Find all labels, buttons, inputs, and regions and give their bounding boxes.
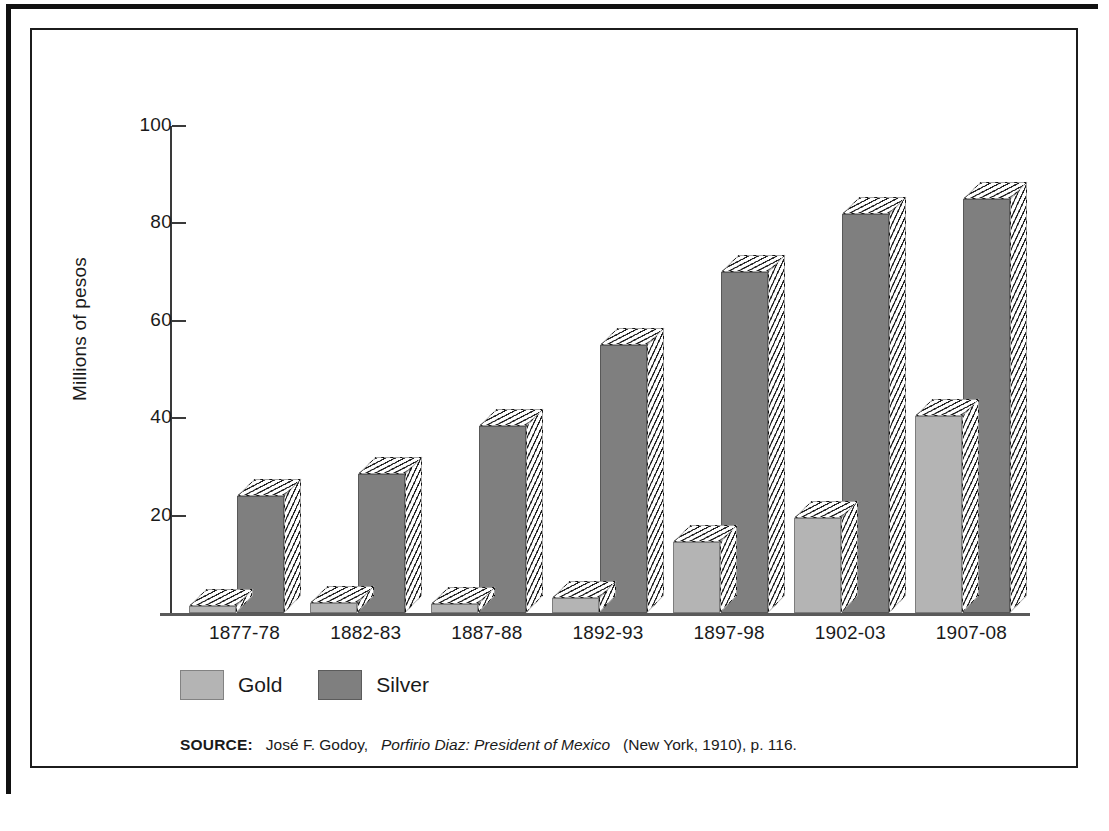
- bar-gold: [552, 598, 599, 613]
- source-title: Porfirio Diaz: President of Mexico: [381, 736, 610, 753]
- x-axis-label: 1882-83: [305, 622, 426, 644]
- bar-side-face: [962, 398, 979, 613]
- bar-front-face: [479, 426, 526, 613]
- bar-silver: [479, 426, 526, 613]
- bar-side-face: [526, 408, 543, 613]
- bar-group: [431, 30, 543, 613]
- bar-group: [915, 30, 1027, 613]
- chart-legend: GoldSilver: [180, 670, 429, 700]
- y-tick-label-20: 20: [126, 504, 172, 526]
- source-prefix: SOURCE:: [180, 736, 253, 753]
- bar-group: [552, 30, 664, 613]
- bar-side-face: [284, 479, 301, 613]
- x-axis-label: 1902-03: [790, 622, 911, 644]
- bar-side-face: [405, 457, 422, 613]
- bar-side-face: [768, 255, 785, 613]
- bar-gold: [673, 542, 720, 613]
- y-tick-100: [172, 125, 186, 127]
- bar-side-face: [889, 196, 906, 613]
- page-canvas: 20406080100 Millions of pesos 1877-78188…: [0, 0, 1109, 831]
- bar-group: [673, 30, 785, 613]
- source-author: José F. Godoy,: [266, 736, 368, 753]
- bar-front-face: [600, 345, 647, 613]
- legend-label-gold: Gold: [238, 673, 282, 697]
- bar-gold: [310, 603, 357, 613]
- y-tick-label-40: 40: [126, 406, 172, 428]
- bar-gold: [189, 606, 236, 613]
- legend-swatch-gold: [180, 670, 224, 700]
- x-axis-label: 1887-88: [426, 622, 547, 644]
- y-tick-40: [172, 417, 186, 419]
- y-tick-label-80: 80: [126, 211, 172, 233]
- legend-item-silver: Silver: [318, 670, 429, 700]
- bar-side-face: [647, 328, 664, 613]
- bar-front-face: [431, 604, 478, 613]
- bar-gold: [431, 604, 478, 613]
- bar-group: [310, 30, 422, 613]
- legend-item-gold: Gold: [180, 670, 282, 700]
- bar-front-face: [915, 416, 962, 613]
- bar-front-face: [552, 598, 599, 613]
- bar-side-face: [841, 500, 858, 613]
- source-note: SOURCE: José F. Godoy, Porfirio Diaz: Pr…: [180, 736, 797, 754]
- x-axis-label: 1907-08: [911, 622, 1032, 644]
- bar-group: [189, 30, 301, 613]
- bar-group: [794, 30, 906, 613]
- source-publication: (New York, 1910), p. 116.: [623, 736, 797, 753]
- bar-front-face: [310, 603, 357, 613]
- x-axis-label: 1892-93: [547, 622, 668, 644]
- x-axis-line: [160, 613, 1030, 616]
- bar-gold: [915, 416, 962, 613]
- y-tick-label-100: 100: [126, 114, 172, 136]
- y-axis-line: [170, 126, 172, 614]
- bar-side-face: [1010, 181, 1027, 613]
- y-tick-80: [172, 222, 186, 224]
- x-axis-label: 1877-78: [184, 622, 305, 644]
- legend-swatch-silver: [318, 670, 362, 700]
- bar-gold: [794, 518, 841, 613]
- y-axis-title: Millions of pesos: [69, 209, 91, 449]
- bar-silver: [600, 345, 647, 613]
- y-tick-60: [172, 320, 186, 322]
- decorative-left-rule: [6, 4, 11, 794]
- decorative-top-rule: [6, 4, 1098, 9]
- legend-label-silver: Silver: [376, 673, 429, 697]
- bar-front-face: [673, 542, 720, 613]
- y-tick-label-60: 60: [126, 309, 172, 331]
- x-axis-label: 1897-98: [669, 622, 790, 644]
- figure-frame: 20406080100 Millions of pesos 1877-78188…: [30, 28, 1078, 768]
- chart-plot-area: 20406080100 Millions of pesos 1877-78188…: [32, 30, 1080, 770]
- bar-front-face: [189, 606, 236, 613]
- bar-front-face: [794, 518, 841, 613]
- y-tick-20: [172, 515, 186, 517]
